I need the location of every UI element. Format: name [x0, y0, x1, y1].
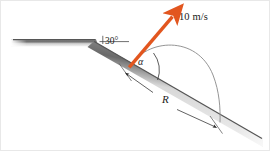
- incline-surface: [88, 41, 264, 147]
- diagram-canvas: [1, 1, 270, 151]
- incline-angle-label: 30°: [105, 37, 118, 47]
- range-label: R: [162, 94, 169, 105]
- velocity-magnitude-label: 10 m/s: [179, 12, 208, 23]
- velocity-vector-arrow: [129, 17, 172, 68]
- physics-diagram-figure: 10 m/s 30° α R: [0, 0, 270, 151]
- range-dimension: [119, 63, 223, 133]
- ground-surface: [11, 39, 99, 46]
- launch-angle-label: α: [138, 57, 143, 67]
